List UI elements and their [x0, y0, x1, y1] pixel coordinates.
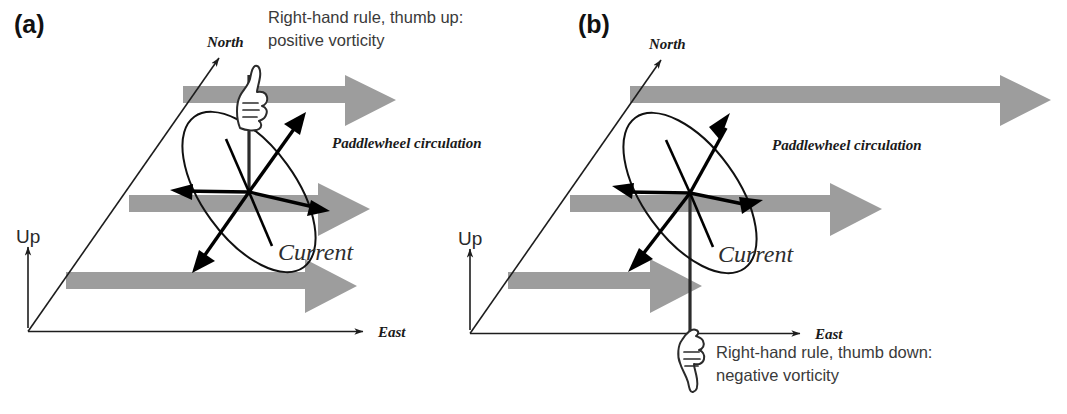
panel-b-callout-line2: negative vorticity — [716, 366, 840, 384]
panel-a-up-label: Up — [16, 226, 40, 247]
panel-b-east-label: East — [814, 326, 843, 342]
figure-root: (a) Right-hand rule, thumb up: positive … — [0, 0, 1067, 414]
panel-a-letter: (a) — [14, 10, 45, 38]
panel-b-callout-line1: Right-hand rule, thumb down: — [716, 343, 932, 361]
panel-b-letter: (b) — [578, 10, 610, 38]
panel-a-callout-line2: positive vorticity — [268, 31, 385, 49]
panel-b-spoke-w — [627, 192, 690, 193]
panel-a-paddlewheel-label: Paddlewheel circulation — [332, 135, 482, 151]
panel-b-up-label: Up — [458, 228, 482, 249]
vorticity-diagram: (a) Right-hand rule, thumb up: positive … — [0, 0, 1067, 414]
panel-b-current-label: Current — [718, 241, 794, 267]
panel-a-north-label: North — [206, 34, 244, 50]
panel-b-north-label: North — [648, 36, 686, 52]
panel-b-paddlewheel-label: Paddlewheel circulation — [772, 137, 922, 153]
panel-a-east-label: East — [377, 324, 406, 340]
panel-a-current-label: Current — [278, 239, 354, 265]
panel-a-callout-line1: Right-hand rule, thumb up: — [268, 8, 463, 26]
